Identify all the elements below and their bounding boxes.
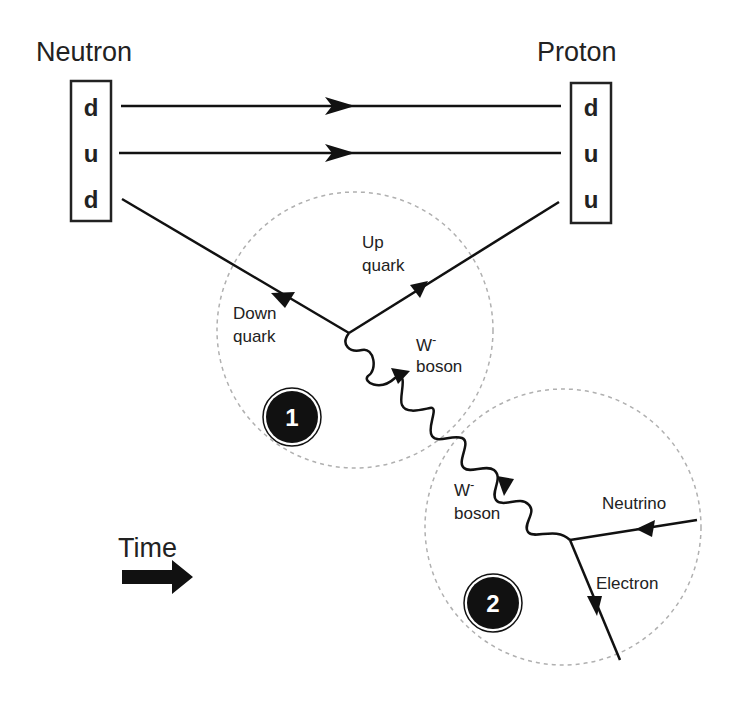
neutron-quark-1: d bbox=[84, 94, 99, 121]
up-quark-label-2: quark bbox=[362, 256, 405, 275]
svg-text:1: 1 bbox=[285, 404, 298, 431]
neutron-label: Neutron bbox=[36, 37, 132, 67]
proton-quark-3: u bbox=[584, 186, 599, 213]
w-boson-label-1b: boson bbox=[416, 357, 462, 376]
neutrino-label: Neutrino bbox=[602, 494, 666, 513]
arrow-icon bbox=[636, 520, 655, 537]
time-label: Time bbox=[118, 533, 177, 563]
feynman-diagram: Neutron d u d Proton d u u Down quark Up… bbox=[0, 0, 737, 712]
proton-quark-1: d bbox=[584, 94, 599, 121]
svg-text:2: 2 bbox=[486, 590, 499, 617]
down-quark-label: Down bbox=[233, 304, 276, 323]
w-boson-label-1: W- bbox=[416, 332, 436, 355]
arrow-icon bbox=[497, 476, 514, 496]
vertex-1-badge: 1 bbox=[263, 388, 321, 446]
neutron-quark-2: u bbox=[84, 140, 99, 167]
w-boson-label-2b: boson bbox=[454, 504, 500, 523]
up-quark-label: Up bbox=[362, 233, 384, 252]
electron-label: Electron bbox=[596, 574, 658, 593]
right-arrow-icon bbox=[122, 560, 193, 594]
proton-label: Proton bbox=[537, 37, 617, 67]
neutron-quark-3: d bbox=[84, 186, 99, 213]
vertex-2-badge: 2 bbox=[464, 574, 522, 632]
down-quark-label-2: quark bbox=[233, 327, 276, 346]
neutrino-line bbox=[570, 520, 697, 540]
w-boson-label-2: W- bbox=[454, 477, 474, 500]
proton-quark-2: u bbox=[584, 140, 599, 167]
arrow-icon bbox=[410, 281, 428, 298]
arrow-icon bbox=[391, 368, 410, 384]
